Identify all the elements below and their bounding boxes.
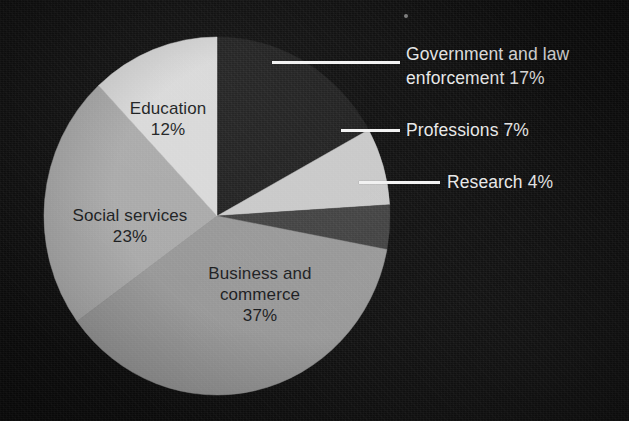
slice-education-line2: 12% [92, 119, 244, 140]
slice-education-line1: Education [92, 98, 244, 119]
slice-business-line1: Business and [176, 263, 344, 284]
slice-business-line3: 37% [176, 305, 344, 326]
callout-label-government: Government and law enforcement 17% [406, 42, 569, 90]
leader-line-research [359, 181, 440, 184]
slice-label-education: Education 12% [92, 98, 244, 140]
callout-label-research: Research 4% [447, 170, 553, 194]
slice-label-social: Social services 23% [44, 205, 216, 247]
callout-government-line1: Government and law [406, 44, 569, 64]
slice-business-line2: commerce [176, 284, 344, 305]
leader-line-government [272, 61, 400, 64]
slice-social-line2: 23% [44, 226, 216, 247]
callout-label-professions: Professions 7% [406, 118, 529, 142]
callout-professions-line1: Professions 7% [406, 120, 529, 140]
pie-chart-figure: Government and law enforcement 17% Profe… [0, 0, 629, 421]
callout-research-line1: Research 4% [447, 172, 553, 192]
scan-speck [404, 14, 408, 18]
callout-government-line2: enforcement 17% [406, 66, 569, 90]
slice-social-line1: Social services [44, 205, 216, 226]
leader-line-professions [341, 129, 400, 132]
slice-label-business: Business and commerce 37% [176, 263, 344, 326]
